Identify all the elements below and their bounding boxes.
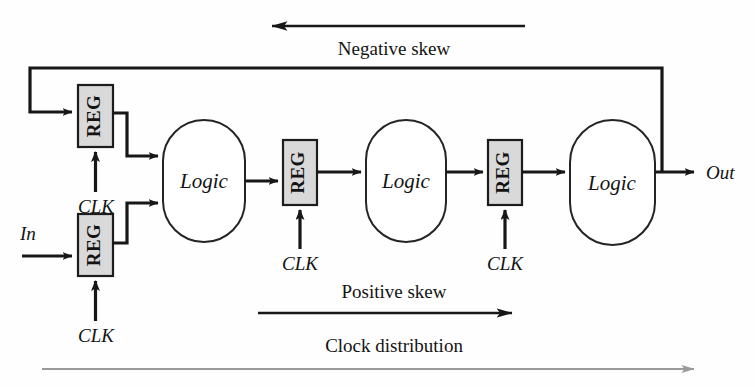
register-stage2[interactable]: REG CLK <box>282 140 319 274</box>
feedback-wire <box>30 68 662 172</box>
annotation-clock-distribution: Clock distribution <box>42 335 694 369</box>
register-input-label: REG <box>83 224 104 266</box>
positive-skew-label: Positive skew <box>341 281 446 302</box>
logic-block-2-label: Logic <box>381 169 431 193</box>
register-stage2-clk-label: CLK <box>282 253 319 274</box>
feedback-path <box>30 68 662 172</box>
annotation-positive-skew: Positive skew <box>258 281 512 313</box>
wire-reg-feedback-to-logic1 <box>113 113 158 156</box>
register-input[interactable]: REG CLK <box>78 214 115 346</box>
register-stage2-label: REG <box>287 151 308 193</box>
register-stage3-clk-label: CLK <box>487 253 524 274</box>
wire-reg-input-to-logic1 <box>113 203 158 243</box>
input-path: In <box>19 223 72 256</box>
register-stage3[interactable]: REG CLK <box>487 140 524 274</box>
circuit-schematic-canvas: Negative skew In REG CLK REG CLK <box>0 0 755 387</box>
logic-block-3-label: Logic <box>587 171 637 195</box>
register-input-clk-label: CLK <box>78 325 115 346</box>
clock-skew-diagram: Negative skew In REG CLK REG CLK <box>0 0 755 387</box>
output-label: Out <box>706 162 735 183</box>
register-feedback-label: REG <box>83 95 104 137</box>
register-feedback[interactable]: REG CLK <box>78 85 115 217</box>
clock-distribution-label: Clock distribution <box>325 335 463 356</box>
register-stage3-label: REG <box>492 151 513 193</box>
logic-block-3[interactable]: Logic <box>570 120 655 245</box>
logic-block-1-label: Logic <box>179 169 229 193</box>
logic-block-2[interactable]: Logic <box>366 120 446 242</box>
input-label: In <box>19 223 36 244</box>
logic-block-1[interactable]: Logic <box>163 120 245 242</box>
annotation-negative-skew: Negative skew <box>272 26 525 59</box>
output-path: Out <box>655 162 735 183</box>
negative-skew-label: Negative skew <box>338 38 451 59</box>
